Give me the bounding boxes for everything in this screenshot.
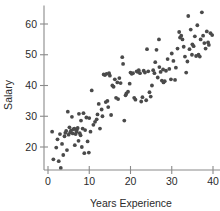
data-point bbox=[195, 23, 199, 27]
data-point bbox=[56, 137, 60, 141]
data-point bbox=[157, 65, 161, 69]
data-point bbox=[77, 112, 81, 116]
data-point bbox=[101, 114, 105, 118]
data-point bbox=[112, 85, 116, 89]
data-point bbox=[173, 78, 177, 82]
data-point bbox=[174, 66, 178, 70]
data-point bbox=[167, 67, 171, 71]
data-point bbox=[86, 140, 90, 144]
data-point bbox=[156, 76, 160, 80]
data-point bbox=[80, 145, 84, 149]
data-point bbox=[163, 79, 167, 83]
x-tick-label: 20 bbox=[125, 175, 137, 187]
data-point bbox=[202, 41, 206, 45]
data-point bbox=[113, 77, 117, 81]
data-point bbox=[184, 71, 188, 75]
data-point bbox=[108, 74, 112, 78]
data-point bbox=[157, 37, 161, 41]
data-point bbox=[143, 71, 147, 75]
data-point bbox=[146, 69, 150, 73]
data-point bbox=[87, 116, 91, 120]
data-point bbox=[66, 110, 70, 114]
data-point bbox=[70, 115, 74, 119]
data-point bbox=[134, 98, 138, 102]
data-point bbox=[176, 47, 180, 51]
data-point bbox=[79, 119, 83, 123]
data-point bbox=[89, 130, 93, 134]
data-point bbox=[120, 55, 124, 59]
data-point bbox=[144, 98, 148, 102]
data-point bbox=[73, 143, 77, 147]
data-point bbox=[199, 37, 203, 41]
data-point bbox=[90, 89, 94, 93]
data-point bbox=[186, 14, 190, 18]
data-point bbox=[59, 166, 63, 170]
data-point bbox=[155, 48, 159, 52]
data-point bbox=[207, 43, 211, 47]
data-point bbox=[193, 34, 197, 38]
data-point bbox=[128, 82, 132, 86]
data-point bbox=[79, 133, 83, 137]
x-axis-title: Years Experience bbox=[90, 197, 172, 209]
data-point bbox=[145, 47, 149, 51]
data-point bbox=[82, 111, 86, 115]
data-point bbox=[77, 139, 81, 143]
data-point bbox=[60, 142, 64, 146]
data-point bbox=[131, 71, 135, 75]
data-point bbox=[119, 81, 123, 85]
data-point bbox=[201, 34, 205, 38]
data-point bbox=[57, 159, 61, 163]
y-tick-label: 20 bbox=[25, 141, 37, 153]
y-tick-label: 50 bbox=[25, 48, 37, 60]
y-axis-title: Salary bbox=[2, 79, 14, 110]
data-point bbox=[116, 97, 120, 101]
data-point bbox=[141, 95, 145, 99]
data-point bbox=[182, 45, 186, 49]
data-point bbox=[100, 108, 104, 112]
x-tick-label: 30 bbox=[166, 175, 178, 187]
scatter-plot-figure: 2030405060 010203040 Years Experience Sa… bbox=[0, 0, 220, 211]
y-tick-label: 60 bbox=[25, 18, 37, 30]
data-point bbox=[210, 33, 214, 37]
data-point bbox=[117, 76, 121, 80]
chart-canvas: 2030405060 010203040 Years Experience Sa… bbox=[0, 0, 220, 211]
y-axis: 2030405060 bbox=[25, 6, 48, 170]
data-point bbox=[122, 119, 126, 123]
data-point bbox=[181, 37, 185, 41]
data-point bbox=[87, 151, 91, 155]
data-point bbox=[96, 113, 100, 117]
data-point bbox=[50, 130, 54, 134]
data-point bbox=[190, 53, 194, 57]
data-point bbox=[121, 62, 125, 66]
data-point bbox=[126, 90, 130, 94]
data-point bbox=[189, 28, 193, 32]
data-point bbox=[115, 81, 119, 85]
data-point bbox=[204, 47, 208, 51]
data-point bbox=[198, 55, 202, 59]
data-point bbox=[51, 157, 55, 161]
data-point bbox=[97, 102, 101, 106]
data-point bbox=[186, 60, 190, 64]
data-point bbox=[148, 90, 152, 94]
data-point bbox=[192, 44, 196, 48]
x-tick-label: 10 bbox=[83, 175, 95, 187]
data-point bbox=[205, 29, 209, 33]
data-point bbox=[63, 134, 67, 138]
data-point bbox=[61, 153, 65, 157]
y-tick-label: 40 bbox=[25, 79, 37, 91]
data-point bbox=[54, 146, 58, 150]
data-point bbox=[177, 30, 181, 34]
data-point bbox=[170, 52, 174, 56]
data-point bbox=[58, 132, 62, 136]
x-tick-label: 40 bbox=[207, 175, 219, 187]
data-point bbox=[166, 57, 170, 61]
data-point bbox=[139, 100, 143, 104]
data-point bbox=[188, 47, 192, 51]
data-point bbox=[109, 113, 113, 117]
data-point bbox=[169, 77, 173, 81]
data-point bbox=[76, 126, 80, 130]
data-point bbox=[64, 129, 68, 133]
data-point bbox=[106, 99, 110, 103]
x-axis: 010203040 bbox=[44, 166, 220, 187]
data-points-layer bbox=[50, 10, 214, 169]
